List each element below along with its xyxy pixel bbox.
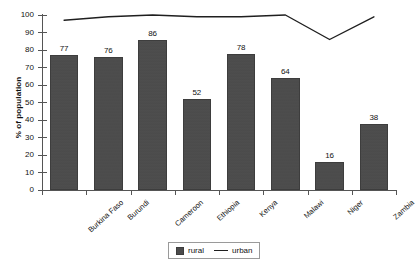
y-tick-label: 70	[6, 62, 34, 73]
legend-label-rural: rural	[188, 246, 204, 255]
x-tick-mark	[352, 190, 353, 195]
rural-swatch-icon	[176, 247, 184, 255]
bar-value-label: 76	[94, 46, 122, 56]
bar-cameroon	[138, 40, 166, 191]
legend-label-urban: urban	[232, 246, 252, 255]
bar-value-label: 86	[139, 29, 167, 39]
chart-legend: rural urban	[168, 242, 260, 259]
bar-malawi	[271, 78, 299, 190]
x-category-label-ethiopia: Ethiopia	[215, 198, 241, 223]
x-tick-mark	[263, 190, 264, 195]
x-tick-mark	[86, 190, 87, 195]
y-tick-label: 100	[6, 9, 34, 20]
bar-burkina-faso	[50, 55, 78, 190]
legend-item-urban: urban	[214, 246, 252, 255]
x-category-label-zambia: Zambia	[391, 198, 416, 221]
y-tick-label: 10	[6, 167, 34, 178]
y-tick-label: 90	[6, 27, 34, 38]
bar-value-label: 64	[271, 67, 299, 77]
y-tick-mark	[38, 32, 47, 33]
y-tick-mark	[38, 155, 47, 156]
x-tick-mark	[396, 190, 397, 195]
x-category-label-burkina-faso: Burkina Faso	[86, 198, 125, 234]
y-tick-mark	[38, 137, 47, 138]
bar-value-label: 77	[50, 44, 78, 54]
bar-burundi	[94, 57, 122, 190]
bar-value-label: 78	[227, 43, 255, 53]
urban-line-icon	[214, 250, 228, 251]
x-tick-mark	[308, 190, 309, 195]
x-category-label-cameroon: Cameroon	[173, 198, 205, 228]
y-tick-mark	[38, 50, 47, 51]
x-category-label-malawi: Malawi	[302, 198, 325, 220]
x-tick-mark	[219, 190, 220, 195]
y-tick-label: 80	[6, 44, 34, 55]
bar-value-label: 16	[316, 151, 344, 161]
y-tick-mark	[38, 172, 47, 173]
x-tick-mark	[42, 190, 43, 195]
y-tick-mark	[38, 85, 47, 86]
y-tick-label: 30	[6, 132, 34, 143]
x-category-label-niger: Niger	[345, 198, 364, 217]
legend-item-rural: rural	[176, 246, 204, 255]
bar-kenya	[227, 54, 255, 191]
x-category-label-burundi: Burundi	[126, 198, 151, 222]
y-tick-label: 40	[6, 114, 34, 125]
bar-value-label: 52	[183, 88, 211, 98]
y-tick-label: 0	[6, 184, 34, 195]
x-tick-mark	[175, 190, 176, 195]
y-tick-mark	[38, 15, 47, 16]
bar-zambia	[360, 124, 388, 191]
bar-ethiopia	[183, 99, 211, 190]
bar-niger	[315, 162, 343, 190]
x-category-label-kenya: Kenya	[258, 198, 280, 219]
y-tick-mark	[38, 120, 47, 121]
y-tick-label: 20	[6, 149, 34, 160]
x-tick-mark	[131, 190, 132, 195]
y-tick-mark	[38, 102, 47, 103]
bar-value-label: 38	[360, 113, 388, 123]
y-tick-label: 50	[6, 97, 34, 108]
y-tick-label: 60	[6, 79, 34, 90]
y-tick-mark	[38, 67, 47, 68]
